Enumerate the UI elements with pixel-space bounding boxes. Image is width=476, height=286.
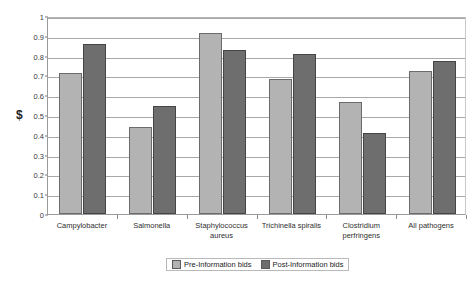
legend-swatch-icon — [172, 260, 181, 269]
x-axis-label-line: Staphylococcus — [187, 221, 257, 231]
y-axis-tick-label: 0.4 — [18, 131, 44, 140]
y-axis-tick-label: 0.2 — [18, 171, 44, 180]
x-axis-labels: CampylobacterSalmonellaStaphylococcusaur… — [47, 221, 466, 251]
x-axis-label-line: Clostridium — [326, 221, 396, 231]
x-axis-label-line: Trichinella spiralis — [257, 221, 327, 231]
x-axis-tick-mark — [187, 215, 188, 219]
bar-group — [409, 18, 456, 214]
bar-pre-information — [409, 71, 432, 214]
y-axis-tick-label: 0.5 — [18, 112, 44, 121]
legend-label: Pre-Information bids — [184, 260, 252, 269]
x-axis-label: Staphylococcusaureus — [187, 221, 257, 241]
y-axis-tick-label: 0.7 — [18, 72, 44, 81]
bar-pre-information — [339, 102, 362, 214]
x-axis-tick-mark — [326, 215, 327, 219]
x-axis-label: Clostridiumperfringens — [326, 221, 396, 241]
y-axis-tick-label: 0.6 — [18, 92, 44, 101]
x-axis-tick-mark — [117, 215, 118, 219]
legend-swatch-icon — [261, 260, 270, 269]
x-axis-tick-mark — [396, 215, 397, 219]
bar-group — [269, 18, 316, 214]
bar-post-information — [433, 61, 456, 214]
bars-layer — [48, 18, 465, 214]
x-axis-label: Campylobacter — [47, 221, 117, 231]
bar-group — [339, 18, 386, 214]
legend-entry: Post-Information bids — [261, 260, 344, 269]
legend-label: Post-Information bids — [273, 260, 344, 269]
bar-group — [129, 18, 176, 214]
bar-chart-figure: $ 00.10.20.30.40.50.60.70.80.91 Campylob… — [0, 0, 476, 286]
bar-pre-information — [269, 79, 292, 214]
bar-post-information — [363, 133, 386, 214]
bar-group — [199, 18, 246, 214]
x-axis-label: All pathogens — [396, 221, 466, 231]
y-axis-tick-label: 0.8 — [18, 52, 44, 61]
y-axis-tick-layer: 00.10.20.30.40.50.60.70.80.91 — [13, 17, 44, 215]
x-axis-tick-mark — [466, 215, 467, 219]
x-axis-label: Salmonella — [117, 221, 187, 231]
y-axis-tick-label: 0.9 — [18, 32, 44, 41]
x-axis-label: Trichinella spiralis — [257, 221, 327, 231]
legend-entry: Pre-Information bids — [172, 260, 252, 269]
bar-group — [59, 18, 106, 214]
bar-pre-information — [199, 33, 222, 214]
x-axis-label-line: All pathogens — [396, 221, 466, 231]
bar-post-information — [83, 44, 106, 214]
bar-pre-information — [59, 73, 82, 214]
y-axis-tick-label: 0.3 — [18, 151, 44, 160]
x-axis-tick-mark — [257, 215, 258, 219]
x-axis-label-line: aureus — [187, 231, 257, 241]
bar-pre-information — [129, 127, 152, 214]
chart-legend: Pre-Information bidsPost-Information bid… — [166, 258, 349, 271]
bar-post-information — [223, 50, 246, 214]
y-axis-tick-label: 0 — [18, 211, 44, 220]
plot-area — [47, 17, 466, 215]
x-axis-label-line: perfringens — [326, 231, 396, 241]
bar-post-information — [293, 54, 316, 214]
x-axis-label-line: Campylobacter — [47, 221, 117, 231]
x-axis-label-line: Salmonella — [117, 221, 187, 231]
y-axis-tick-label: 0.1 — [18, 191, 44, 200]
y-axis-tick-label: 1 — [18, 13, 44, 22]
bar-post-information — [153, 106, 176, 214]
